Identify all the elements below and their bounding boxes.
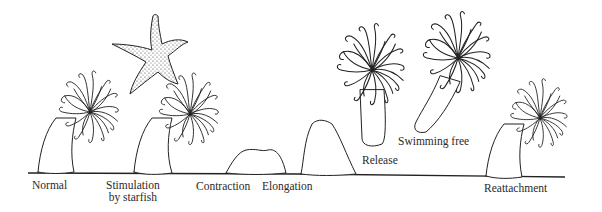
label-elongation: Elongation [262, 180, 312, 192]
anemone-swimming [415, 12, 490, 133]
label-normal: Normal [32, 179, 67, 191]
label-release: Release [362, 154, 398, 166]
starfish [112, 15, 188, 95]
label-stimulation: Stimulation by starfish [106, 179, 160, 203]
label-swimming-free: Swimming free [398, 135, 469, 147]
label-stimulation-line1: Stimulation [106, 179, 160, 191]
label-reattachment: Reattachment [484, 182, 547, 194]
label-stimulation-line2: by starfish [106, 191, 160, 203]
anemone-release [337, 24, 404, 146]
anemone-reattachment [486, 79, 567, 179]
label-contraction: Contraction [196, 180, 250, 192]
anemone-contraction [226, 149, 286, 174]
anemone-stimulation [134, 73, 218, 174]
anemone-elongation [301, 120, 356, 175]
anemone-normal [38, 71, 118, 174]
ground-line [28, 173, 565, 177]
anemone-escape-diagram: Normal Stimulation by starfish Contracti… [0, 0, 602, 212]
